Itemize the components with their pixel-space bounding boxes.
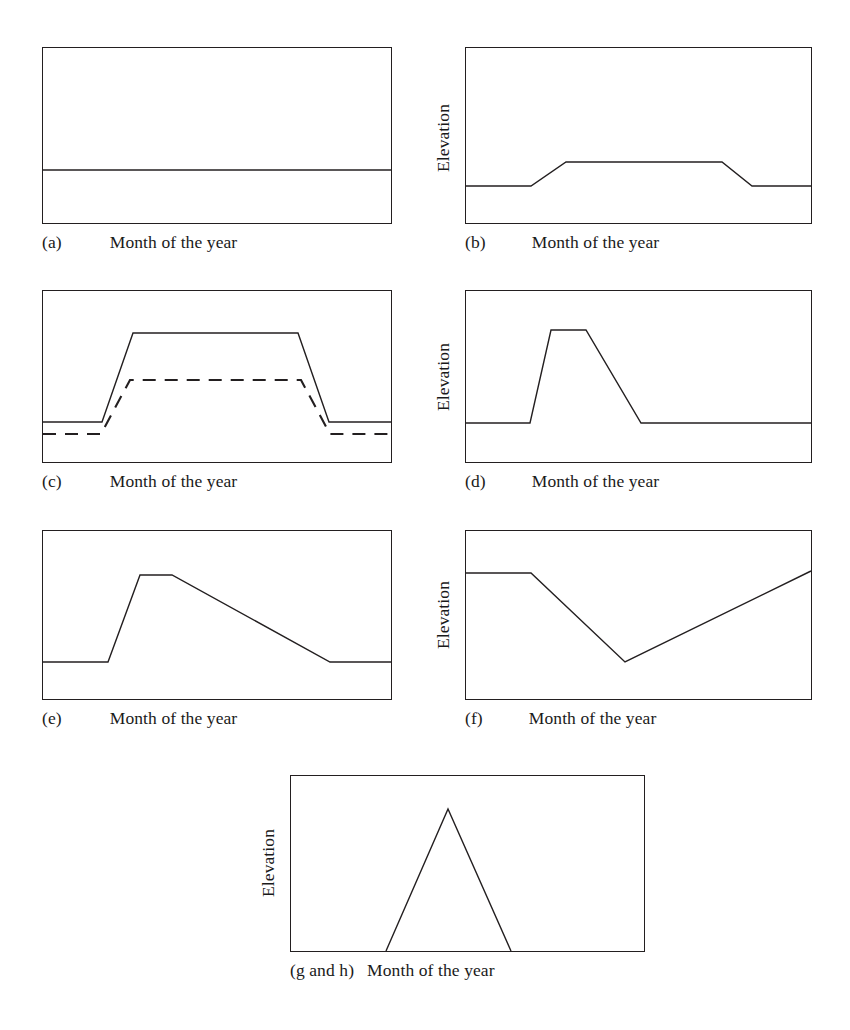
panel-c	[42, 290, 392, 463]
panel-c-caption: (c) Month of the year	[42, 471, 392, 492]
panel-d-caption: (d) Month of the year	[465, 471, 812, 492]
panel-e-caption: (e) Month of the year	[42, 708, 392, 729]
panel-f-tag: (f)	[465, 708, 483, 729]
panel-f-caption: (f) Month of the year	[465, 708, 812, 729]
panel-b-yaxis-label: Elevation	[433, 83, 455, 193]
panel-c-series-group	[42, 290, 392, 463]
figure-panel-grid: (a) Month of the year Elevation (b) Mont…	[0, 0, 850, 1030]
panel-f-yaxis-label: Elevation	[433, 560, 455, 670]
panel-b-tag: (b)	[465, 232, 486, 253]
panel-e-tag: (e)	[42, 708, 62, 729]
panel-d	[465, 290, 812, 463]
panel-b	[465, 47, 812, 224]
panel-b-series-elevation	[465, 47, 812, 224]
panel-d-yaxis-label: Elevation	[433, 322, 455, 432]
panel-f-series-elevation	[465, 530, 812, 700]
panel-d-series-elevation	[465, 290, 812, 463]
panel-f	[465, 530, 812, 700]
panel-d-tag: (d)	[465, 471, 486, 492]
panel-c-series-solid	[43, 333, 391, 422]
panel-gh-caption: (g and h) Month of the year	[290, 960, 645, 981]
panel-a-caption: (a) Month of the year	[42, 232, 392, 253]
panel-c-xaxis-label: Month of the year	[110, 471, 238, 492]
panel-a	[42, 47, 392, 224]
panel-e	[42, 530, 392, 700]
panel-d-xaxis-label: Month of the year	[532, 471, 660, 492]
panel-gh-xaxis-label: Month of the year	[367, 960, 495, 981]
panel-gh-series-elevation	[290, 775, 645, 952]
panel-gh-tag: (g and h)	[290, 960, 354, 981]
panel-e-xaxis-label: Month of the year	[110, 708, 238, 729]
panel-c-series-dashed	[43, 380, 391, 434]
panel-b-xaxis-label: Month of the year	[532, 232, 660, 253]
panel-gh	[290, 775, 645, 952]
panel-b-caption: (b) Month of the year	[465, 232, 812, 253]
panel-a-xaxis-label: Month of the year	[110, 232, 238, 253]
panel-a-series-elevation	[42, 47, 392, 224]
panel-a-tag: (a)	[42, 232, 62, 253]
panel-f-xaxis-label: Month of the year	[529, 708, 657, 729]
panel-gh-yaxis-label: Elevation	[258, 808, 280, 918]
panel-e-series-elevation	[42, 530, 392, 700]
panel-c-tag: (c)	[42, 471, 62, 492]
